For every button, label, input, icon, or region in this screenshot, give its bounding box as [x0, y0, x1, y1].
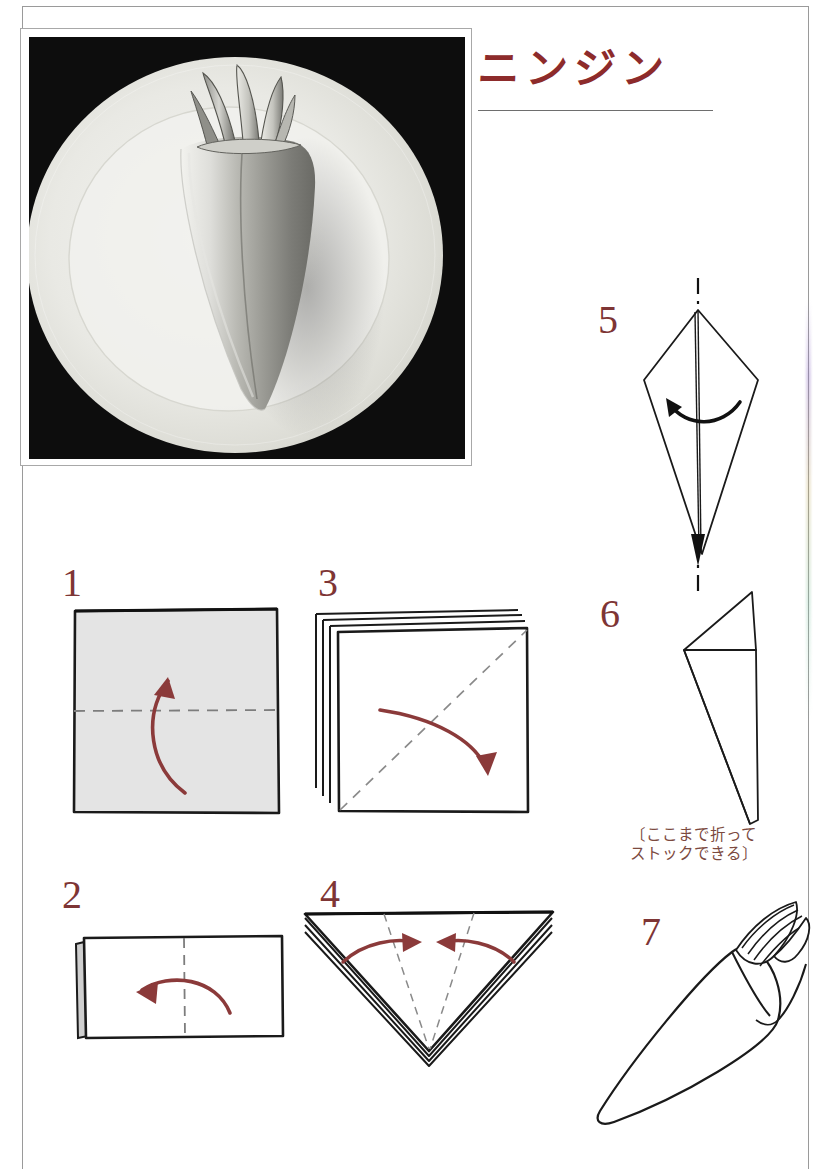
step-1-diagram — [72, 607, 282, 817]
step-2-diagram — [70, 928, 285, 1048]
step-3-number: 3 — [318, 563, 338, 603]
carrot-napkin-fold-photo — [20, 28, 472, 466]
step-6-diagram — [632, 588, 772, 828]
recipe-page: ニンジン 1 2 3 — [0, 0, 836, 1175]
step-5-diagram — [630, 276, 770, 596]
photo-image-area — [29, 37, 465, 459]
step-2-number: 2 — [62, 875, 82, 915]
stock-note-line-1: 〔ここまで折って — [596, 826, 791, 845]
step-1-number: 1 — [62, 563, 82, 603]
step-5-number: 5 — [598, 300, 618, 340]
step-6-number: 6 — [600, 594, 620, 634]
page-title: ニンジン — [478, 34, 738, 95]
step-4-diagram — [296, 906, 561, 1066]
step-3-diagram — [306, 600, 531, 825]
photo-illustration — [29, 37, 465, 459]
page-title-text: ニンジン — [476, 34, 739, 95]
title-underline — [478, 110, 713, 111]
stock-note: 〔ここまで折って ストックできる〕 — [596, 826, 791, 865]
stock-note-line-2: ストックできる〕 — [596, 845, 791, 864]
page-border-top — [22, 6, 809, 7]
step-7-diagram — [560, 890, 820, 1140]
